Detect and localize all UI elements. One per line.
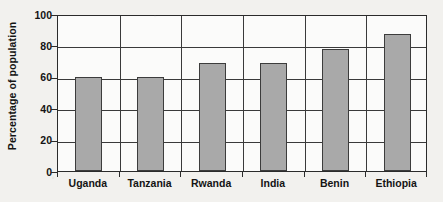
x-category-label-uganda: Uganda <box>57 175 119 191</box>
y-tick-mark <box>51 172 57 173</box>
x-category-label-india: India <box>242 175 304 191</box>
x-category-label-rwanda: Rwanda <box>180 175 242 191</box>
x-category-label-ethiopia: Ethiopia <box>365 175 427 191</box>
y-tick-label: 80 <box>26 41 52 52</box>
y-tick-label: 60 <box>26 72 52 83</box>
bar <box>384 34 411 171</box>
x-category-label-benin: Benin <box>304 175 366 191</box>
bar <box>199 63 226 171</box>
y-tick-mark <box>51 109 57 110</box>
y-axis-tick-labels: 020406080100 <box>22 0 52 202</box>
x-axis-category-labels: UgandaTanzaniaRwandaIndiaBeninEthiopia <box>57 175 427 193</box>
y-tick-mark <box>51 46 57 47</box>
y-tick-label: 20 <box>26 135 52 146</box>
y-axis-title: Percentage of population <box>4 0 20 172</box>
y-tick-mark <box>51 78 57 79</box>
bar-chart-figure: Percentage of population 020406080100 Ug… <box>0 0 443 202</box>
plot-area <box>57 15 427 172</box>
y-tick-label: 40 <box>26 104 52 115</box>
bar <box>322 49 349 171</box>
bar <box>137 77 164 171</box>
bar <box>260 63 287 171</box>
bar <box>75 77 102 171</box>
x-category-label-tanzania: Tanzania <box>119 175 181 191</box>
y-tick-label: 0 <box>26 167 52 178</box>
y-tick-mark <box>51 15 57 16</box>
y-tick-label: 100 <box>26 10 52 21</box>
y-tick-mark <box>51 141 57 142</box>
bars-layer <box>58 16 426 171</box>
